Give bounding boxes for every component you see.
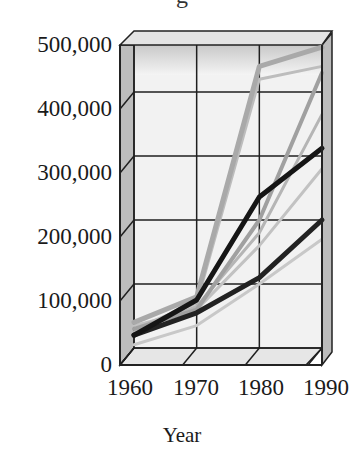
x-tick-1990: 1990 [291, 376, 361, 399]
back-wall-shade [134, 45, 322, 75]
x-axis-label: Year [0, 423, 364, 448]
x-tick-1960: 1960 [95, 376, 165, 399]
right-wall [322, 33, 332, 365]
floor [120, 348, 322, 365]
y-tick-400000: 400,000 [37, 97, 112, 120]
x-tick-1970: 1970 [161, 376, 231, 399]
x-tick-1980: 1980 [226, 376, 296, 399]
y-tick-500000: 500,000 [37, 33, 112, 56]
y-tick-300000: 300,000 [37, 161, 112, 184]
y-tick-100000: 100,000 [37, 289, 112, 312]
y-tick-0: 0 [101, 353, 113, 376]
left-wall [120, 45, 134, 365]
y-tick-200000: 200,000 [37, 225, 112, 248]
top-face [120, 31, 332, 45]
